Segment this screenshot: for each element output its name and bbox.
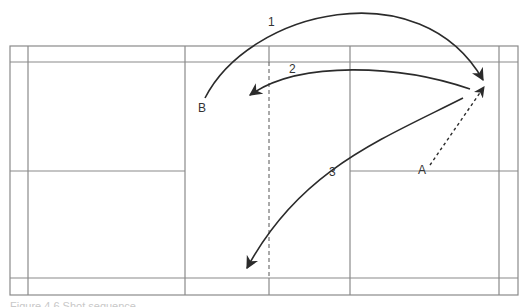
shot-label-3: 3 [329, 165, 336, 179]
figure-caption: Figure 4.6 Shot sequence [10, 300, 136, 307]
shot-1-arc [205, 13, 483, 98]
shot-2-arc [250, 70, 470, 95]
shot-label-1: 1 [268, 15, 275, 29]
player-move-a [430, 87, 484, 165]
shot-label-2: 2 [289, 62, 296, 76]
position-label-a: A [418, 163, 426, 177]
court-diagram: 1 2 3 B A [0, 0, 529, 307]
court-lines [10, 46, 518, 295]
shot-3-line [247, 98, 463, 268]
position-label-b: B [198, 101, 206, 115]
